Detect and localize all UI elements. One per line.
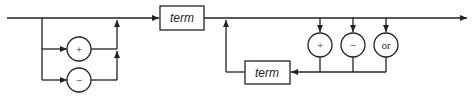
operator-bus-path <box>291 57 386 72</box>
first-term-box: term <box>160 6 204 30</box>
operator-minus-label: − <box>350 39 356 51</box>
first-term-label: term <box>170 11 194 25</box>
operator-minus-node: − <box>341 33 365 57</box>
loop-term-box: term <box>245 61 290 84</box>
operator-drop-paths <box>320 18 386 32</box>
sign-minus-node: − <box>67 68 91 92</box>
sign-plus-label: + <box>76 43 82 55</box>
sign-plus-node: + <box>67 37 91 61</box>
operator-or-node: or <box>374 33 398 57</box>
operator-plus-label: + <box>317 39 323 51</box>
loop-back-path <box>226 20 245 72</box>
syntax-diagram: + − term + − or term <box>0 0 472 99</box>
operator-or-label: or <box>381 39 391 51</box>
operator-plus-node: + <box>308 33 332 57</box>
sign-minus-label: − <box>76 74 82 86</box>
loop-term-label: term <box>255 66 279 80</box>
